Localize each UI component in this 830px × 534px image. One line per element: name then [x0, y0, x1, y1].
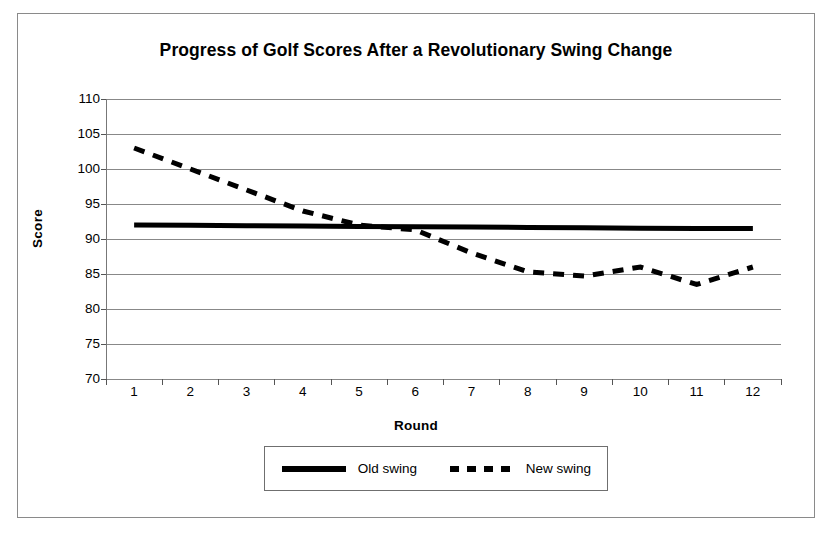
x-tick-label: 6 [392, 384, 438, 400]
series-line-old-swing [134, 225, 753, 229]
y-tick-label: 80 [48, 302, 100, 316]
y-tick-label: 85 [48, 267, 100, 281]
y-axis-title: Score [30, 209, 45, 248]
y-tick-label: 105 [48, 127, 100, 141]
y-axis-tick-labels: 707580859095100105110 [48, 99, 100, 379]
legend-swatch-dashed-icon [449, 463, 515, 475]
y-tick-label: 70 [48, 372, 100, 386]
x-tick-label: 7 [449, 384, 495, 400]
legend-entry-old-swing: Old swing [281, 461, 417, 476]
x-tick-label: 5 [336, 384, 382, 400]
x-tick-label: 1 [111, 384, 157, 400]
y-axis-ticks [101, 99, 106, 379]
x-tick-label: 8 [505, 384, 551, 400]
legend-swatch-solid-icon [281, 463, 347, 475]
x-tick-label: 4 [280, 384, 326, 400]
x-tick-label: 12 [730, 384, 776, 400]
legend-label-old-swing: Old swing [358, 461, 417, 476]
plot-area [106, 99, 781, 379]
y-tick-label: 95 [48, 197, 100, 211]
data-series [134, 148, 753, 285]
x-axis-tick-labels: 123456789101112 [106, 384, 781, 406]
x-tick-label: 10 [617, 384, 663, 400]
x-tick-label: 11 [674, 384, 720, 400]
legend-entry-new-swing: New swing [449, 461, 591, 476]
chart-title: Progress of Golf Scores After a Revoluti… [18, 40, 814, 61]
x-tick-label: 2 [167, 384, 213, 400]
y-tick-label: 100 [48, 162, 100, 176]
legend: Old swing New swing [264, 446, 608, 491]
y-tick-label: 110 [48, 92, 100, 106]
x-tick-label: 3 [224, 384, 270, 400]
plot-svg [106, 99, 781, 379]
series-line-new-swing [134, 148, 753, 285]
x-tick-label: 9 [561, 384, 607, 400]
figure-frame: Progress of Golf Scores After a Revoluti… [17, 13, 815, 518]
y-tick-label: 75 [48, 337, 100, 351]
legend-label-new-swing: New swing [526, 461, 591, 476]
x-axis-title: Round [18, 418, 814, 433]
y-tick-label: 90 [48, 232, 100, 246]
